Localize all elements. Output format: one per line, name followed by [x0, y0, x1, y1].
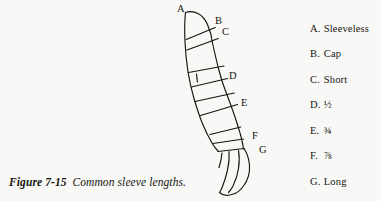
callout-d: D — [229, 71, 237, 82]
figure-number: Figure 7-15 — [9, 176, 67, 188]
legend-key-a: A. — [310, 24, 321, 35]
legend-label-sleeveless: Sleeveless — [324, 24, 369, 35]
length-line-three-quarter-lower — [201, 105, 238, 116]
legend-item-three-quarter: E. ¾ — [310, 126, 332, 137]
legend-key-b: B. — [310, 49, 321, 60]
callout-g: G — [259, 145, 267, 156]
figure-caption: Figure 7-15 Common sleeve lengths. — [9, 176, 186, 189]
length-line-seven-eighths — [210, 127, 241, 135]
legend-item-cap: B. Cap — [310, 49, 341, 60]
hand-thumb-stroke — [219, 153, 222, 168]
legend-label-three-quarter: ¾ — [324, 126, 332, 137]
hand-finger-tip-stroke — [220, 193, 236, 196]
hand-middle-stroke — [229, 151, 240, 193]
legend-key-c: C. — [310, 75, 321, 86]
legend-item-sleeveless: A. Sleeveless — [310, 24, 369, 35]
callout-f: F — [252, 131, 258, 142]
callout-a: A — [177, 4, 185, 15]
figure-caption-text: Common sleeve lengths. — [72, 176, 186, 188]
legend-key-e: E. — [310, 126, 321, 137]
wrist-edge — [218, 149, 244, 152]
callout-c: C — [222, 27, 229, 38]
legend-item-short: C. Short — [310, 75, 347, 86]
legend-label-half: ½ — [324, 100, 332, 111]
legend-key-d: D. — [310, 100, 321, 111]
sleeve-lengths-illustration — [150, 0, 280, 201]
legend-label-seven-eighths: ⅞ — [324, 151, 332, 162]
legend-label-short: Short — [324, 75, 348, 86]
callout-b: B — [215, 16, 222, 27]
elbow-tick — [197, 74, 198, 82]
hand-outer-stroke — [235, 149, 250, 194]
legend-label-long: Long — [324, 177, 347, 188]
length-line-long — [213, 139, 244, 144]
legend-item-seven-eighths: F. ⅞ — [310, 151, 332, 162]
figure-container: A B C D E F G A. Sleeveless B. Cap C. Sh… — [0, 0, 381, 201]
legend-item-long: G. Long — [310, 177, 347, 188]
legend-key-f: F. — [310, 151, 321, 162]
legend-item-half: D. ½ — [310, 100, 332, 111]
callout-e: E — [241, 98, 248, 109]
legend-label-cap: Cap — [324, 49, 341, 60]
legend-key-g: G. — [310, 177, 321, 188]
legend-list: A. Sleeveless B. Cap C. Short D. ½ E. ¾ … — [310, 0, 381, 201]
